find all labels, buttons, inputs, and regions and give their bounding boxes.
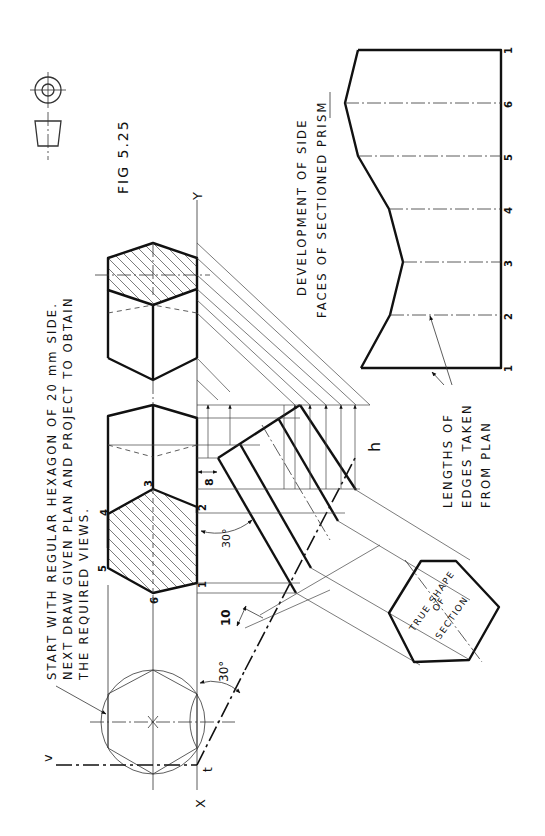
development-label-line1: DEVELOPMENT OF SIDE [295,118,309,296]
edges-note: LENGTHS OF EDGES TAKEN FROM PLAN [430,316,493,508]
station-label-2: 2 [503,313,514,320]
station-label-1-top: 1 [503,47,514,54]
station-label-6: 6 [503,101,514,108]
edges-note-line1: LENGTHS OF [441,413,455,508]
station-label-5: 5 [503,154,514,161]
vertex-label-2: 2 [197,504,208,511]
projection-symbol-icon [30,72,66,160]
x-label: X [193,799,208,808]
diagonal-projectors [197,243,370,405]
y-label: Y [190,192,205,201]
angle-label-section: 30° [220,529,233,549]
development-of-side-faces: 1 6 5 4 3 2 1 [345,47,514,372]
plane-label-v: v [40,754,55,762]
true-shape-projectors: 10 [219,490,470,665]
vertex-label-1: 1 [197,581,208,588]
dimension-label-10: 10 [219,609,233,626]
instruction-line2: NEXT DRAW GIVEN PLAN AND PROJECT TO OBTA… [61,296,75,680]
development-label-line2: FACES OF SECTIONED PRISM [315,100,329,318]
instruction-note: START WITH REGULAR HEXAGON OF 20 mm SIDE… [45,296,106,714]
edges-note-line2: EDGES TAKEN [460,403,474,508]
true-shape-hexagon: TRUE SHAPE OF SECTION [389,560,499,662]
vertex-label-6: 6 [149,597,160,604]
technical-drawing: FIG 5.25 Y X [0,0,545,836]
vertex-label-4: 4 [99,509,110,516]
construction-circle [90,585,235,790]
station-label-4: 4 [503,207,514,214]
instruction-line1: START WITH REGULAR HEXAGON OF 20 mm SIDE… [45,302,59,680]
vertex-label-5: 5 [97,565,108,572]
instruction-line3: THE REQUIRED VIEWS. [77,507,91,681]
edges-note-line3: FROM PLAN [479,421,493,508]
dimension-label-8: 8 [203,478,216,486]
station-label-3: 3 [503,260,514,267]
plane-label-t: t [201,767,215,772]
xy-reference-line: Y X [190,192,208,808]
station-label-1-bottom: 1 [503,365,514,372]
auxiliary-section-view: 30° 8 [198,405,356,593]
cutting-plane: v t h 30° [40,442,384,772]
figure-title: FIG 5.25 [115,119,131,194]
angle-label-plane: 30° [217,661,231,682]
plane-label-h: h [365,442,384,452]
projector-lines [197,405,370,593]
vertex-label-3: 3 [143,480,154,487]
